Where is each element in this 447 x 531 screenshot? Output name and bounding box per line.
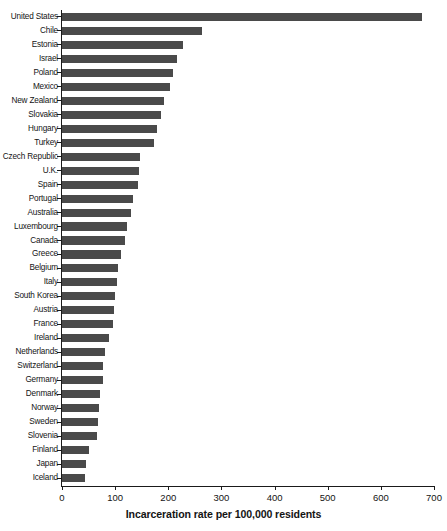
bar-category-label: Australia (0, 208, 58, 218)
x-axis-tick (381, 486, 382, 490)
bar-category-label: Mexico (0, 82, 58, 92)
bar-category-label: Canada (0, 236, 58, 246)
bar-row: Finland (0, 443, 447, 457)
bar-row: Estonia (0, 38, 447, 52)
bar-row: Spain (0, 178, 447, 192)
x-axis-tick-label: 100 (107, 492, 123, 504)
bar-row: Sweden (0, 415, 447, 429)
x-axis-tick (62, 486, 63, 490)
bar (62, 236, 125, 244)
bar-category-label: Italy (0, 277, 58, 287)
bar-row: Australia (0, 206, 447, 220)
bar-category-label: Iceland (0, 473, 58, 483)
bar-row: Denmark (0, 387, 447, 401)
bar (62, 111, 161, 119)
bar-category-label: Hungary (0, 124, 58, 134)
bar-category-label: Switzerland (0, 361, 58, 371)
bar (62, 348, 105, 356)
bar-row: Israel (0, 52, 447, 66)
x-axis-tick (275, 486, 276, 490)
bar-category-label: Japan (0, 459, 58, 469)
bar-category-label: Netherlands (0, 347, 58, 357)
bar (62, 404, 99, 412)
x-axis-tick-label: 200 (160, 492, 176, 504)
bar (62, 167, 139, 175)
bar-row: Belgium (0, 261, 447, 275)
bar (62, 97, 164, 105)
x-axis-tick-label: 300 (213, 492, 229, 504)
bar-category-label: Chile (0, 26, 58, 36)
bar (62, 460, 86, 468)
bar-row: South Korea (0, 289, 447, 303)
x-axis-tick (434, 486, 435, 490)
bar (62, 139, 154, 147)
bar (62, 474, 85, 482)
bar-category-label: France (0, 319, 58, 329)
bar (62, 209, 131, 217)
bar-category-label: Turkey (0, 138, 58, 148)
bar-row: New Zealand (0, 94, 447, 108)
bar (62, 432, 97, 440)
bar (62, 446, 89, 454)
bar-category-label: Sweden (0, 417, 58, 427)
bar-row: France (0, 317, 447, 331)
bar-row: Mexico (0, 80, 447, 94)
x-axis-tick (221, 486, 222, 490)
bar-row: Canada (0, 234, 447, 248)
bar-row: Turkey (0, 136, 447, 150)
x-axis-tick-label: 400 (267, 492, 283, 504)
bar-row: Luxembourg (0, 220, 447, 234)
bar (62, 83, 170, 91)
bar-row: Slovakia (0, 108, 447, 122)
bar (62, 320, 113, 328)
bar-category-label: Finland (0, 445, 58, 455)
bar-row: Slovenia (0, 429, 447, 443)
x-axis-title: Incarceration rate per 100,000 residents (0, 508, 447, 520)
bar-category-label: Slovenia (0, 431, 58, 441)
bar (62, 195, 133, 203)
bar (62, 376, 103, 384)
bar (62, 55, 177, 63)
bar-category-label: Austria (0, 305, 58, 315)
bar-category-label: United States (0, 12, 58, 22)
bar-category-label: Germany (0, 375, 58, 385)
x-axis-tick-label: 0 (59, 492, 64, 504)
x-axis-tick-label: 700 (426, 492, 442, 504)
bar-row: Greece (0, 248, 447, 262)
bar (62, 222, 127, 230)
bar-category-label: Greece (0, 249, 58, 259)
x-axis-tick-label: 500 (320, 492, 336, 504)
bar-row: United States (0, 10, 447, 24)
bar-category-label: Ireland (0, 333, 58, 343)
bar (62, 362, 103, 370)
bar-category-label: Poland (0, 68, 58, 78)
bar-category-label: Israel (0, 54, 58, 64)
bar-category-label: Estonia (0, 40, 58, 50)
bar-row: Norway (0, 401, 447, 415)
bar-row: Italy (0, 275, 447, 289)
bar (62, 69, 173, 77)
x-axis-tick (168, 486, 169, 490)
x-axis-tick-label: 600 (373, 492, 389, 504)
bar-category-label: Belgium (0, 263, 58, 273)
bar (62, 153, 140, 161)
bar (62, 390, 100, 398)
bar-category-label: Norway (0, 403, 58, 413)
bar-category-label: Spain (0, 180, 58, 190)
bar-row: Austria (0, 303, 447, 317)
bar-category-label: Denmark (0, 389, 58, 399)
bar-row: U.K. (0, 164, 447, 178)
bar (62, 27, 202, 35)
bar (62, 250, 121, 258)
bar-row: Czech Republic (0, 150, 447, 164)
bar-category-label: New Zealand (0, 96, 58, 106)
bar-row: Hungary (0, 122, 447, 136)
bar-row: Switzerland (0, 359, 447, 373)
bar (62, 125, 157, 133)
bar (62, 292, 115, 300)
bar-category-label: Czech Republic (0, 152, 58, 162)
bar (62, 278, 117, 286)
bar-category-label: Luxembourg (0, 222, 58, 232)
x-axis-tick (328, 486, 329, 490)
bar (62, 334, 109, 342)
